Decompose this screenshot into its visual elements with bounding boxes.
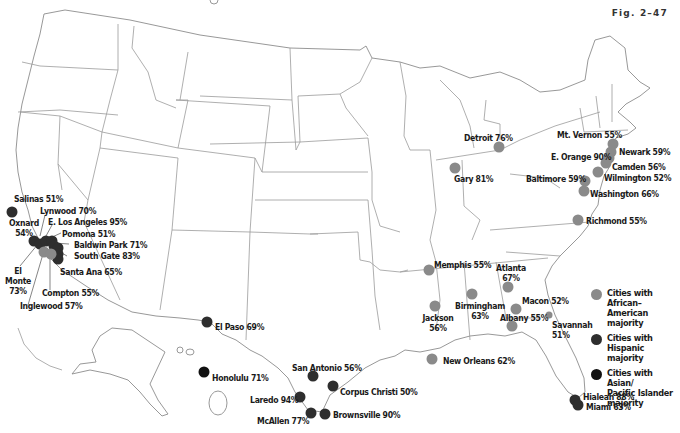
legend-item-asian-pacific: Cities with Asian/ Pacific Islander majo… [591,368,680,408]
legend-label: Cities with African– American majority [607,288,680,328]
legend-label-line: Cities with African– [607,288,653,308]
figure-label: Fig. 2–47 [612,8,668,18]
label-newark: Newark 59% [619,147,670,157]
label-atlanta-pct: 67% [496,273,526,283]
label-south-gate: South Gate 83% [74,251,140,261]
label-atlanta-name: Atlanta [496,263,526,273]
label-richmond: Richmond 55% [586,216,647,226]
legend-label: Cities with Asian/ Pacific Islander majo… [607,368,680,408]
dot-jackson [430,301,441,312]
dot-birmingham [467,289,478,300]
label-detroit: Detroit 76% [464,133,513,143]
label-savannah-name: Savannah [552,320,592,330]
dot-atlanta [503,282,514,293]
hawaii-island [209,391,227,415]
legend-label-line: Pacific Islander [607,388,673,398]
label-mcallen: McAllen 77% [257,416,309,426]
kauai-island [177,347,183,353]
label-camden: Camden 56% [612,162,665,172]
dot-washington [579,186,590,197]
label-el-monte-line1: El [4,266,32,276]
label-e-los-angeles: E. Los Angeles 95% [48,217,127,227]
label-el-monte: El Monte 73% [4,266,32,296]
alaska-outline [72,328,168,416]
label-el-monte-pct: 73% [4,286,32,296]
label-el-paso: El Paso 69% [215,322,264,332]
label-jackson: Jackson 56% [422,313,454,333]
dot-miami [573,400,584,411]
dot-new-orleans [427,354,438,365]
dot-gary [450,163,461,174]
legend-label-line: American majority [607,308,648,328]
dot-wilmington [593,167,604,178]
label-memphis: Memphis 55% [434,260,491,270]
label-corpus-christi: Corpus Christi 50% [340,387,418,397]
map-legend: Cities with African– American majority C… [591,288,680,413]
legend-label-line: majority [607,353,643,363]
label-salinas: Salinas 51% [14,194,63,204]
aleutian-islands [18,328,62,370]
label-honolulu: Honolulu 71% [212,373,269,383]
dot-richmond [573,215,584,226]
gray-dot-icon [591,289,602,300]
label-macon: Macon 52% [522,296,569,306]
label-baldwin-park: Baldwin Park 71% [74,240,147,250]
label-oxnard-pct: 54% [6,228,42,238]
legend-item-african-american: Cities with African– American majority [591,288,680,328]
dot-el-paso [202,317,213,328]
dot-corpus-christi [328,381,339,392]
label-savannah: Savannah 51% [552,320,592,340]
dot-compton [46,249,57,260]
legend-label-line: majority [607,398,643,408]
label-el-monte-line2: Monte [4,276,32,286]
label-mt-vernon: Mt. Vernon 55% [557,130,622,140]
label-inglewood: Inglewood 57% [20,301,82,311]
dark-dot-icon [591,334,602,345]
label-albany: Albany 55% [500,313,548,323]
maui-island [210,0,218,4]
legend-label: Cities with Hispanic majority [607,333,680,363]
label-e-orange: E. Orange 90% [551,152,611,162]
label-birmingham-pct: 63% [455,311,505,321]
dot-brownsville [320,409,331,420]
label-brownsville: Brownsville 90% [333,410,400,420]
oahu-island [186,349,194,355]
label-oxnard: Oxnard 54% [6,218,42,238]
label-pomona: Pomona 51% [62,229,115,239]
label-lynwood: Lynwood 70% [40,206,96,216]
label-gary: Gary 81% [454,174,493,184]
legend-item-hispanic: Cities with Hispanic majority [591,333,680,363]
black-dot-icon [591,369,602,380]
label-atlanta: Atlanta 67% [496,263,526,283]
label-washington: Washington 66% [590,189,659,199]
legend-label-line: Cities with Asian/ [607,368,653,388]
label-birmingham-name: Birmingham [455,301,505,311]
dot-memphis [424,265,435,276]
dot-salinas [7,207,18,218]
label-santa-ana: Santa Ana 65% [60,267,122,277]
label-san-antonio: San Antonio 56% [292,363,362,373]
legend-label-line: Cities with Hispanic [607,333,653,353]
label-baltimore: Baltimore 59% [526,174,586,184]
label-compton: Compton 55% [42,288,99,298]
label-birmingham: Birmingham 63% [455,301,505,321]
label-jackson-pct: 56% [422,323,454,333]
label-oxnard-name: Oxnard [6,218,42,228]
label-new-orleans: New Orleans 62% [443,356,515,366]
label-savannah-pct: 51% [552,330,592,340]
label-wilmington: Wilmington 52% [604,173,671,183]
label-jackson-name: Jackson [422,313,454,323]
dot-detroit [494,142,505,153]
dot-honolulu [199,367,210,378]
label-laredo: Laredo 94% [250,395,298,405]
